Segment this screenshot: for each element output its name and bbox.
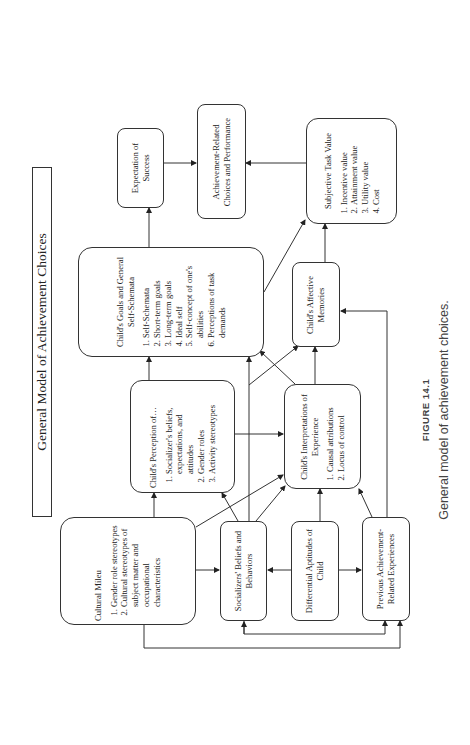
figure-caption: FIGURE 14.1 General model of achievement… (405, 260, 465, 560)
node-achievement-choices: Achievement-Related Choices and Performa… (197, 104, 246, 219)
list-item: Gender role stereotypes (109, 521, 120, 607)
node-label: Achievement-Related Choices and Performa… (211, 110, 232, 214)
node-expectation-of-success: Expectation of Success (117, 128, 164, 208)
list-item: Long-term goals (163, 252, 174, 338)
node-affective-memories: Child's Affective Memories (292, 262, 340, 347)
node-subjective-task-value: Subjective Task Value Incentive value At… (306, 118, 397, 224)
node-differential-aptitudes: Differential Aptitudes of Child (291, 521, 339, 621)
node-label: Previous Achievement-Related Experiences (375, 520, 396, 618)
list-item: Perceptions of task demands (206, 252, 227, 338)
node-previous-experiences: Previous Achievement-Related Experiences (362, 517, 410, 621)
cultural-list: Gender role stereotypes Cultural stereot… (109, 521, 163, 621)
node-title: Child's Perception of… (148, 386, 159, 488)
node-childs-goals: Child's Goals and General Self-Schemata … (78, 247, 264, 357)
node-label: Differential Aptitudes of Child (304, 526, 325, 616)
figure-description: General model of achievement choices. (437, 300, 451, 520)
diagram-title: General Model of Achievement Choices (34, 233, 51, 450)
node-label: Expectation of Success (130, 132, 151, 204)
figure-label: FIGURE 14.1 (420, 300, 431, 520)
node-title: Subjective Task Value (322, 123, 333, 219)
list-item: Self-concept of one's abilities (184, 252, 205, 338)
node-label: Child's Affective Memories (305, 266, 326, 344)
list-item: Locus of control (336, 388, 347, 472)
list-item: Self-Schemata (141, 252, 152, 338)
list-item: Attainment value (349, 123, 360, 205)
list-item: Activity stereotypes (206, 386, 217, 474)
node-cultural-mileu: Cultural Mileu Gender role stereotypes C… (60, 517, 196, 625)
goals-list: Self-Schemata Short-term goals Long-term… (141, 252, 227, 352)
list-item: Ideal self (174, 252, 185, 338)
node-title: Child's Interpretations of Experience (299, 388, 320, 486)
node-title: Cultural Mileu (93, 521, 104, 621)
node-title: Child's Goals and General Self-Schemata (115, 252, 136, 352)
diagram-title-box: General Model of Achievement Choices (32, 167, 52, 517)
list-item: Utility value (359, 123, 370, 205)
list-item: Cultural stereotypes of subject matter a… (120, 521, 163, 607)
node-childs-interpretations: Child's Interpretations of Experience Ca… (284, 384, 361, 489)
node-label: Socializers' Beliefs and Behaviors (233, 525, 254, 617)
list-item: Causal attributions (325, 388, 336, 472)
node-childs-perception: Child's Perception of… Socializer's beli… (130, 380, 235, 493)
list-item: Gender roles (196, 386, 207, 474)
perception-list: Socializer's beliefs, expectations, and … (164, 386, 218, 488)
list-item: Cost (370, 123, 381, 205)
node-socializers-beliefs: Socializers' Beliefs and Behaviors (220, 521, 267, 621)
list-item: Socializer's beliefs, expectations, and … (164, 386, 196, 474)
interpretations-list: Causal attributions Locus of control (325, 388, 346, 486)
task-value-list: Incentive value Attainment value Utility… (338, 123, 381, 219)
list-item: Short-term goals (152, 252, 163, 338)
list-item: Incentive value (338, 123, 349, 205)
